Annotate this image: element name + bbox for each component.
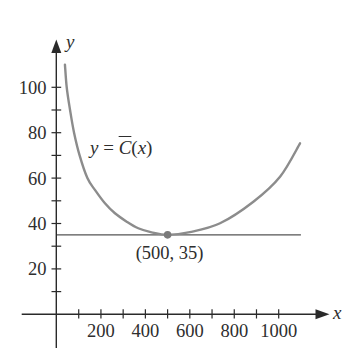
y-axis-arrow-icon xyxy=(51,40,61,54)
x-tick-label: 400 xyxy=(132,321,160,341)
curve-label-function: C xyxy=(119,137,132,158)
chart-figure: 200400600800100020406080100 y x (500, 35… xyxy=(0,0,360,348)
curve-label-close-paren: ) xyxy=(146,137,152,158)
x-tick-label: 600 xyxy=(176,321,204,341)
y-tick-label: 60 xyxy=(28,169,47,189)
minimum-point-marker xyxy=(164,231,172,239)
minimum-point-label: (500, 35) xyxy=(136,243,204,264)
curve-label-arg: x xyxy=(138,137,146,158)
y-tick-label: 100 xyxy=(19,78,47,98)
x-tick-label: 800 xyxy=(220,321,248,341)
x-axis-label: x xyxy=(332,302,342,323)
x-axis-arrow-icon xyxy=(316,309,330,319)
y-tick-label: 80 xyxy=(28,123,47,143)
y-axis-label: y xyxy=(64,31,75,52)
y-tick-label: 40 xyxy=(28,214,47,234)
x-tick-label: 1000 xyxy=(260,321,297,341)
curve-label-equals: = xyxy=(98,137,118,158)
axis-tick-labels: 200400600800100020406080100 xyxy=(19,78,297,341)
axis-ticks xyxy=(52,87,279,318)
chart-plot-area: 200400600800100020406080100 y x (500, 35… xyxy=(0,0,360,348)
x-tick-label: 200 xyxy=(87,321,115,341)
y-tick-label: 20 xyxy=(28,259,47,279)
curve-label: y = C(x) xyxy=(90,138,152,157)
